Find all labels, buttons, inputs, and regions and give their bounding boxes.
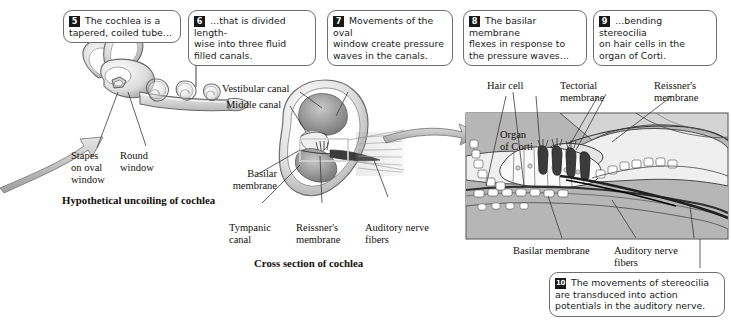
label-tympanic-canal: Tympanic canal [229,222,271,246]
label-auditory-nerve-fibers-middle: Auditory nerve fibers [365,222,429,246]
callout-step-6[interactable]: 6 …that is divided length- wise into thr… [188,10,316,66]
label-auditory-nerve-fibers-right: Auditory nerve fibers [614,245,678,269]
label-hair-cell: Hair cell [487,80,523,92]
callout-9-badge: 9 [599,16,610,27]
callout-step-10[interactable]: 10 The movements of stereocilia are tran… [549,272,725,317]
callout-10-badge: 10 [555,278,566,289]
organ-of-corti-panel [466,92,728,268]
label-reissners-membrane-middle: Reissner's membrane [296,222,340,246]
callout-8-text: The basilar membrane flexes in response … [469,15,580,61]
callout-8-badge: 8 [469,16,480,27]
label-tectorial-membrane: Tectorial membrane [560,80,604,104]
caption-left-panel: Hypothetical uncoiling of cochlea [62,194,215,206]
label-basilar-membrane-middle: Basilar membrane [221,168,277,192]
left-leader-lines [97,92,146,148]
callout-7-text: Movements of the oval window create pres… [333,15,446,61]
label-round-window: Round window [120,150,154,174]
callout-9-text: …bending stereocilia on hair cells in th… [599,15,710,61]
caption-middle-panel: Cross section of cochlea [254,257,363,269]
cochlea-figure: 5 The cochlea is a tapered, coiled tube…… [0,0,731,325]
callout-6-badge: 6 [194,16,205,27]
label-middle-canal: Middle canal [226,99,281,111]
callout-6-text: …that is divided length- wise into three… [194,15,309,61]
callout-step-5[interactable]: 5 The cochlea is a tapered, coiled tube… [63,10,181,43]
label-vestibular-canal: Vestibular canal [222,83,289,95]
label-reissners-membrane-right: Reissner's membrane [654,80,698,104]
callout-5-badge: 5 [69,16,80,27]
callout-step-9[interactable]: 9 …bending stereocilia on hair cells in … [593,10,717,66]
label-basilar-membrane-right: Basilar membrane [513,245,590,257]
callout-step-7[interactable]: 7 Movements of the oval window create pr… [327,10,453,66]
callout-7-badge: 7 [333,16,344,27]
label-organ-of-corti: Organ of Corti [500,129,533,153]
callout-step-8[interactable]: 8 The basilar membrane flexes in respons… [463,10,587,66]
callout-5-text: The cochlea is a tapered, coiled tube… [69,15,174,38]
label-stapes-on-oval-window: Stapes on oval window [71,150,105,185]
callout-10-text: The movements of stereocilia are transdu… [555,277,718,312]
